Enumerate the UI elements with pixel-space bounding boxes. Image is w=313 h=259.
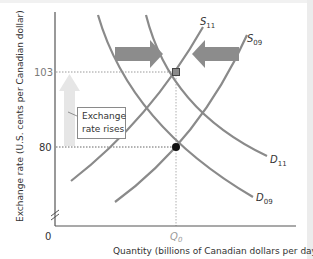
y-tick-80: 80 xyxy=(39,142,52,153)
y-axis-label: Exchange rate (U.S. cents per Canadian d… xyxy=(15,10,25,222)
exchange-rate-rises-callout: Exchange rate rises xyxy=(77,107,126,139)
d11-label: D11 xyxy=(270,154,287,168)
y-tick-103: 103 xyxy=(34,67,53,78)
x-axis-label: Quantity (billions of Canadian dollars p… xyxy=(113,246,313,256)
equilibrium-initial-marker xyxy=(172,143,180,151)
equilibrium-new-marker xyxy=(173,69,180,76)
d09-label: D09 xyxy=(256,192,273,206)
callout-line-1: Exchange xyxy=(82,110,125,123)
callout-line-2: rate rises xyxy=(82,123,125,136)
s09-label: S09 xyxy=(247,33,262,47)
x-tick-q0: Q0 xyxy=(170,231,183,244)
exchange-rate-chart: 103 80 0 Q0 Quantity (billions of Canadi… xyxy=(0,0,313,259)
origin-label: 0 xyxy=(45,231,51,242)
